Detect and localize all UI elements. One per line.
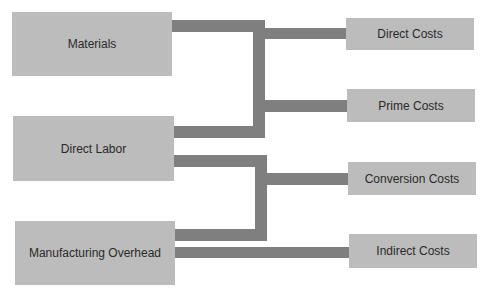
node-label: Prime Costs <box>378 99 443 113</box>
node-label: Materials <box>68 37 117 51</box>
node-indirect-costs: Indirect Costs <box>349 234 477 268</box>
node-label: Direct Labor <box>61 142 126 156</box>
node-manufacturing-overhead: Manufacturing Overhead <box>15 221 175 285</box>
node-materials: Materials <box>12 12 172 76</box>
node-label: Direct Costs <box>377 27 442 41</box>
node-conversion-costs: Conversion Costs <box>348 162 476 195</box>
node-label: Indirect Costs <box>376 244 449 258</box>
node-direct-costs: Direct Costs <box>346 18 474 50</box>
connector-to-conversion-costs <box>267 173 348 185</box>
connector-overhead-out-1 <box>175 229 267 241</box>
connector-to-prime-costs <box>265 100 347 112</box>
connector-trunk-2 <box>255 155 267 241</box>
node-label: Manufacturing Overhead <box>29 246 161 260</box>
node-label: Conversion Costs <box>365 172 460 186</box>
node-direct-labor: Direct Labor <box>13 116 174 181</box>
connector-materials-out <box>172 20 265 32</box>
connector-to-indirect-costs <box>175 247 349 258</box>
connector-direct-labor-out-1 <box>174 126 265 138</box>
connector-to-direct-costs <box>265 28 346 39</box>
connector-direct-labor-out-2 <box>174 155 267 167</box>
connector-trunk-1 <box>253 20 265 138</box>
node-prime-costs: Prime Costs <box>347 89 475 122</box>
